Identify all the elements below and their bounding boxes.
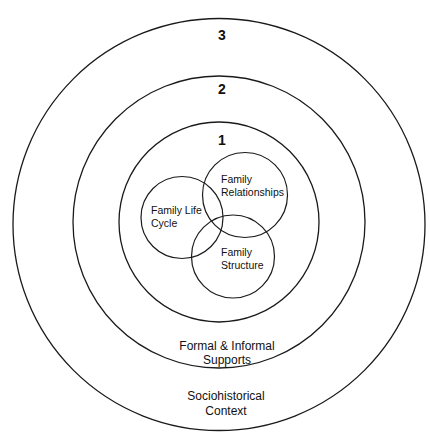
ring-3-label-line1: Sociohistorical (187, 389, 264, 403)
family-relationships-label-line1: Family (221, 173, 253, 185)
ring-1-circle (119, 122, 319, 322)
ring-3-label-line2: Context (205, 404, 247, 418)
family-life-cycle-label-line1: Family Life (151, 204, 202, 216)
ring-2-circle (73, 76, 365, 368)
ring-1-number: 1 (218, 132, 226, 148)
ring-2-label-line1: Formal & Informal (179, 339, 274, 353)
family-life-cycle-label-line2: Cycle (151, 217, 177, 229)
family-structure-label-line1: Family (221, 246, 253, 258)
ring-2-label-line2: Supports (203, 353, 251, 367)
diagram-canvas: 3 2 1 Family Relationships Family Life C… (0, 0, 430, 443)
family-relationships-label-line2: Relationships (221, 186, 284, 198)
ecological-model-diagram: 3 2 1 Family Relationships Family Life C… (0, 0, 430, 443)
ring-3-number: 3 (218, 27, 226, 43)
ring-2-number: 2 (218, 81, 226, 97)
family-structure-label-line2: Structure (221, 259, 264, 271)
